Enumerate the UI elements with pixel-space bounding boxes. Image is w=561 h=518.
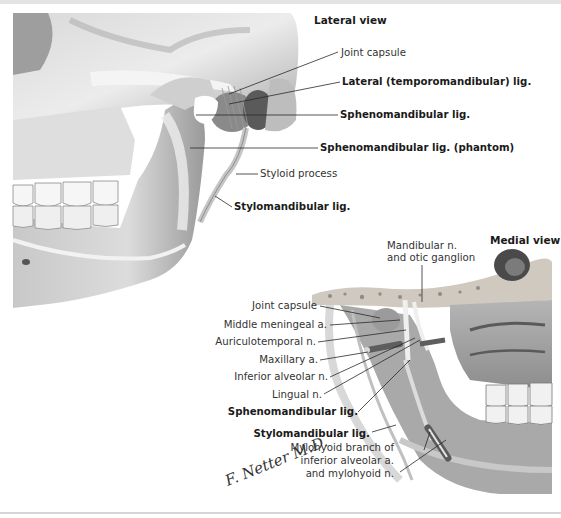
label-middle-meningeal-a: Middle meningeal a. [224,319,327,331]
label-joint-capsule-lateral: Joint capsule [341,47,406,59]
label-mylohyoid-line3: and mylohyoid n. [306,468,394,480]
label-mylohyoid-line2: inferior alveolar a. [301,455,394,467]
label-mandibular-n-line1: Mandibular n. [387,240,457,252]
label-sphenomandibular-lig-medial: Sphenomandibular lig. [228,406,358,418]
label-styloid-process: Styloid process [260,168,337,180]
label-lateral-temporomandibular-lig: Lateral (temporomandibular) lig. [342,76,531,88]
medial-view-title: Medial view [490,234,560,246]
label-sphenomandibular-lig-phantom: Sphenomandibular lig. (phantom) [320,142,514,154]
label-mandibular-n-line2: and otic ganglion [387,252,475,264]
label-maxillary-a: Maxillary a. [259,354,318,366]
label-inferior-alveolar-n: Inferior alveolar n. [234,371,328,383]
label-stylomandibular-lig-lateral: Stylomandibular lig. [234,201,351,213]
label-sphenomandibular-lig-lateral: Sphenomandibular lig. [340,109,470,121]
bottom-border [0,512,561,514]
label-auriculotemporal-n: Auriculotemporal n. [215,336,316,348]
lateral-skull [13,13,298,308]
label-joint-capsule-medial: Joint capsule [252,300,317,312]
lateral-view-title: Lateral view [314,14,387,26]
label-lingual-n: Lingual n. [272,389,322,401]
